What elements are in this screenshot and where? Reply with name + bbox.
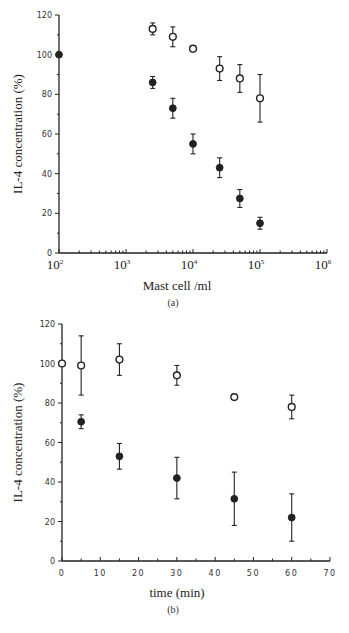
series-filled-circles bbox=[78, 415, 295, 541]
y-tick-label: 20 bbox=[42, 209, 52, 218]
data-point bbox=[190, 141, 197, 148]
x-axis-label: Mast cell /ml bbox=[143, 278, 212, 293]
x-tick-label: 106 bbox=[315, 257, 332, 272]
data-point bbox=[231, 394, 238, 401]
y-tick-label: 80 bbox=[42, 90, 52, 99]
figure: 020406080100120102103104105106IL-4 conce… bbox=[0, 0, 349, 633]
x-axis-label: time (min) bbox=[149, 585, 204, 600]
data-point bbox=[236, 75, 243, 82]
data-point bbox=[78, 418, 85, 425]
y-tick-label: 120 bbox=[37, 11, 52, 20]
chart-panel-b: 020406080100120010203040506070IL-4 conce… bbox=[10, 320, 337, 616]
x-tick-label: 105 bbox=[248, 257, 265, 272]
x-tick-label: 70 bbox=[323, 569, 336, 578]
data-point bbox=[169, 33, 176, 40]
data-point bbox=[116, 453, 123, 460]
data-point bbox=[59, 360, 66, 367]
x-tick-label: 50 bbox=[247, 569, 260, 578]
data-point bbox=[257, 95, 264, 102]
series-open-circles bbox=[59, 336, 296, 419]
y-axis-label: IL-4 concentration (%) bbox=[10, 74, 25, 194]
x-tick-label: 102 bbox=[47, 257, 64, 272]
panel-caption: (b) bbox=[167, 604, 179, 616]
data-point bbox=[169, 105, 176, 112]
data-point bbox=[216, 65, 223, 72]
data-point bbox=[78, 362, 85, 369]
chart-panel-a: 020406080100120102103104105106IL-4 conce… bbox=[10, 11, 332, 309]
y-tick-label: 0 bbox=[50, 557, 55, 566]
y-tick-label: 80 bbox=[45, 399, 55, 408]
data-point bbox=[257, 220, 264, 227]
y-axis-label: IL-4 concentration (%) bbox=[10, 383, 25, 503]
data-point bbox=[236, 195, 243, 202]
data-point bbox=[231, 495, 238, 502]
x-tick-label: 104 bbox=[181, 257, 198, 272]
series-filled-circles bbox=[56, 51, 264, 229]
x-tick-label: 20 bbox=[132, 569, 145, 578]
y-tick-label: 40 bbox=[42, 170, 52, 179]
data-point bbox=[116, 356, 123, 363]
data-point bbox=[288, 404, 295, 411]
y-tick-label: 100 bbox=[37, 51, 52, 60]
series-open-circles bbox=[149, 23, 263, 122]
y-tick-label: 60 bbox=[45, 439, 55, 448]
y-tick-label: 20 bbox=[45, 518, 55, 527]
data-point bbox=[149, 25, 156, 32]
x-tick-label: 40 bbox=[209, 569, 222, 578]
data-point bbox=[149, 79, 156, 86]
x-tick-label: 30 bbox=[170, 569, 183, 578]
y-tick-label: 120 bbox=[40, 320, 55, 329]
y-tick-label: 60 bbox=[42, 130, 52, 139]
x-tick-label: 0 bbox=[59, 569, 66, 578]
data-point bbox=[173, 372, 180, 379]
x-tick-label: 10 bbox=[94, 569, 107, 578]
x-tick-label: 103 bbox=[114, 257, 131, 272]
panel-caption: (a) bbox=[167, 297, 178, 309]
y-tick-label: 40 bbox=[45, 478, 55, 487]
data-point bbox=[288, 514, 295, 521]
data-point bbox=[190, 45, 197, 52]
y-tick-label: 100 bbox=[40, 360, 55, 369]
data-point bbox=[173, 475, 180, 482]
data-point bbox=[56, 51, 63, 58]
x-tick-label: 60 bbox=[285, 569, 298, 578]
data-point bbox=[216, 164, 223, 171]
